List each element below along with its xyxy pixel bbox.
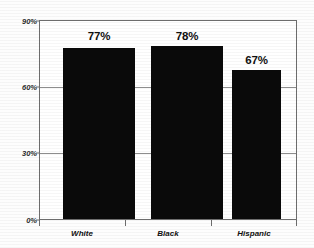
ytick-label-30: 30% xyxy=(22,148,40,157)
value-label-black: 78% xyxy=(151,30,223,42)
value-label-hispanic: 67% xyxy=(232,54,281,66)
xtick-label-black: Black xyxy=(125,229,211,238)
xtick-separator-4 xyxy=(296,220,297,226)
xtick-label-white: White xyxy=(39,229,125,238)
xtick-separator-3 xyxy=(211,220,212,226)
bars-layer xyxy=(40,21,296,219)
bar-black[interactable] xyxy=(151,46,223,219)
value-label-white: 77% xyxy=(63,30,135,42)
ytick-label-0: 0% xyxy=(26,215,40,224)
ytick-label-60: 60% xyxy=(22,82,40,91)
bar-hispanic[interactable] xyxy=(232,70,281,219)
xtick-separator-2 xyxy=(125,220,126,226)
x-axis: White Black Hispanic xyxy=(39,220,297,248)
bar-chart: 90% 60% 30% 0% 77% 78% 67% White xyxy=(0,0,314,248)
ytick-label-90: 90% xyxy=(22,16,40,25)
bar-white[interactable] xyxy=(63,48,135,219)
xtick-separator-1 xyxy=(39,220,40,226)
plot-area: 90% 60% 30% 0% 77% 78% 67% xyxy=(39,20,297,220)
xtick-label-hispanic: Hispanic xyxy=(211,229,297,238)
